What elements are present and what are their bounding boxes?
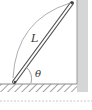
length-label: L: [30, 32, 38, 45]
angle-arc: [26, 67, 31, 83]
rod-wall-diagram: L θ: [0, 0, 92, 110]
angle-label: θ: [35, 68, 41, 79]
rod: [14, 2, 74, 84]
wall: [77, 0, 88, 92]
floor: [0, 84, 77, 92]
